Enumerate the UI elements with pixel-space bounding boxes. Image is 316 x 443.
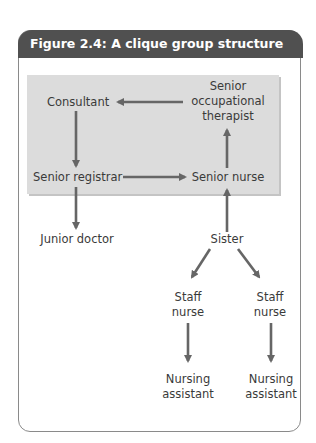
node-nursing-assistant-left: Nursing assistant xyxy=(160,372,216,402)
node-consultant: Consultant xyxy=(47,95,107,110)
node-label-line: nurse xyxy=(168,305,208,320)
node-senior-registrar: Senior registrar xyxy=(33,170,121,185)
node-label-line: occupational xyxy=(186,94,270,109)
node-label: Sister xyxy=(211,232,244,246)
node-senior-nurse: Senior nurse xyxy=(190,170,266,185)
node-staff-nurse-left: Staff nurse xyxy=(168,290,208,320)
node-sister: Sister xyxy=(204,232,250,247)
node-senior-occupational-therapist: Senior occupational therapist xyxy=(186,79,270,124)
node-label: Consultant xyxy=(47,95,109,109)
node-label-line: Staff xyxy=(250,290,290,305)
node-label-line: assistant xyxy=(243,387,299,402)
node-label: Senior nurse xyxy=(192,170,265,184)
node-staff-nurse-right: Staff nurse xyxy=(250,290,290,320)
node-junior-doctor: Junior doctor xyxy=(37,232,117,247)
node-label-line: Nursing xyxy=(160,372,216,387)
node-label: Senior registrar xyxy=(33,170,122,184)
node-label-line: Staff xyxy=(168,290,208,305)
node-nursing-assistant-right: Nursing assistant xyxy=(243,372,299,402)
node-label-line: nurse xyxy=(250,305,290,320)
node-label-line: assistant xyxy=(160,387,216,402)
node-label-line: therapist xyxy=(186,109,270,124)
figure-title: Figure 2.4: A clique group structure xyxy=(18,30,303,58)
node-label: Junior doctor xyxy=(40,232,114,246)
node-label-line: Senior xyxy=(186,79,270,94)
node-label-line: Nursing xyxy=(243,372,299,387)
